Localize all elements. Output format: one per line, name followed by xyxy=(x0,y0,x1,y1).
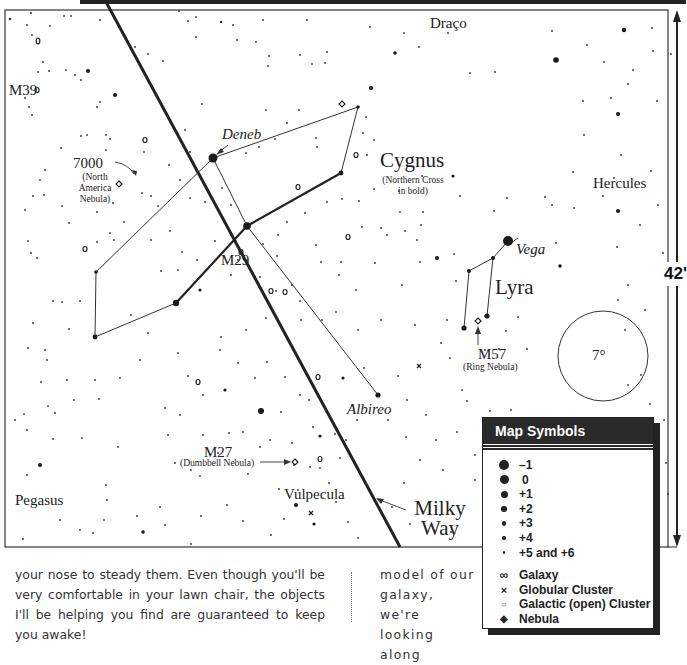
legend-row-mag-3: +3 xyxy=(483,516,653,531)
deep-sky-objects xyxy=(35,38,481,515)
galaxy-icon: ∞ xyxy=(497,568,511,582)
nebula-icon: ◈ xyxy=(497,612,511,626)
star-mag-4-icon xyxy=(502,536,506,540)
label-milky-way: Milky Way xyxy=(410,499,470,539)
body-text-column-1: your nose to steady them. Even though yo… xyxy=(15,565,325,645)
label-ngc7000: 7000 xyxy=(73,156,103,171)
label-draco: Draço xyxy=(430,16,467,31)
star-mag-5-6-icon xyxy=(503,551,506,554)
legend-row-mag-1: +1 xyxy=(483,487,653,502)
label-pegasus: Pegasus xyxy=(15,493,63,508)
legend-row-mag-2: +2 xyxy=(483,502,653,517)
legend-row-nebula: ◈Nebula xyxy=(483,612,653,627)
legend-row-open-cluster: ○Galactic (open) Cluster xyxy=(483,597,653,612)
star-mag-3-icon xyxy=(502,521,507,526)
star-mag-2-icon xyxy=(501,506,507,512)
label-deneb: Deneb xyxy=(222,127,261,142)
map-symbols-legend: Map Symbols –1 0 +1 +2 +3 +4 +5 and +6 ∞… xyxy=(482,417,654,629)
label-albireo: Albireo xyxy=(347,402,391,417)
body-text-column-2: model of our galaxy, we're looking along xyxy=(380,565,478,665)
label-m29: M29 xyxy=(221,253,249,268)
label-cygnus: Cygnus xyxy=(380,150,444,171)
cygnus-outline xyxy=(95,107,378,395)
star-mag-0-icon xyxy=(500,475,509,484)
label-m57-note: (Ring Nebula) xyxy=(463,362,518,373)
legend-row-mag-4: +4 xyxy=(483,531,653,546)
label-m57: M57 xyxy=(478,347,506,362)
label-vulpecula: Vulpecula xyxy=(284,487,345,502)
legend-row-globular-cluster: ×Globular Cluster xyxy=(483,583,653,598)
legend-title: Map Symbols xyxy=(483,418,653,448)
label-hercules: Hercules xyxy=(593,176,646,191)
label-m39: M39 xyxy=(9,83,37,98)
label-vega: Vega xyxy=(516,242,545,257)
star-mag-1-icon xyxy=(501,491,508,498)
legend-row-mag-5-6: +5 and +6 xyxy=(483,546,653,561)
label-ngc7000-note: (North America Nebula) xyxy=(68,172,122,205)
label-m27-note: (Dumbbell Nebula) xyxy=(180,458,254,469)
globular-cluster-icon: × xyxy=(497,583,511,597)
scale-label: 42' xyxy=(664,262,687,286)
label-cygnus-note: (Northern Cross in bold) xyxy=(378,175,448,197)
legend-row-galaxy: ∞Galaxy xyxy=(483,568,653,583)
label-lyra: Lyra xyxy=(495,277,533,298)
legend-row-mag-0: 0 xyxy=(483,473,653,488)
column-separator xyxy=(351,572,352,622)
field-circle-label: 7° xyxy=(592,348,606,363)
star-mag-neg1-icon xyxy=(499,460,509,470)
open-cluster-icon: ○ xyxy=(497,597,511,611)
legend-row-mag-neg1: –1 xyxy=(483,458,653,473)
